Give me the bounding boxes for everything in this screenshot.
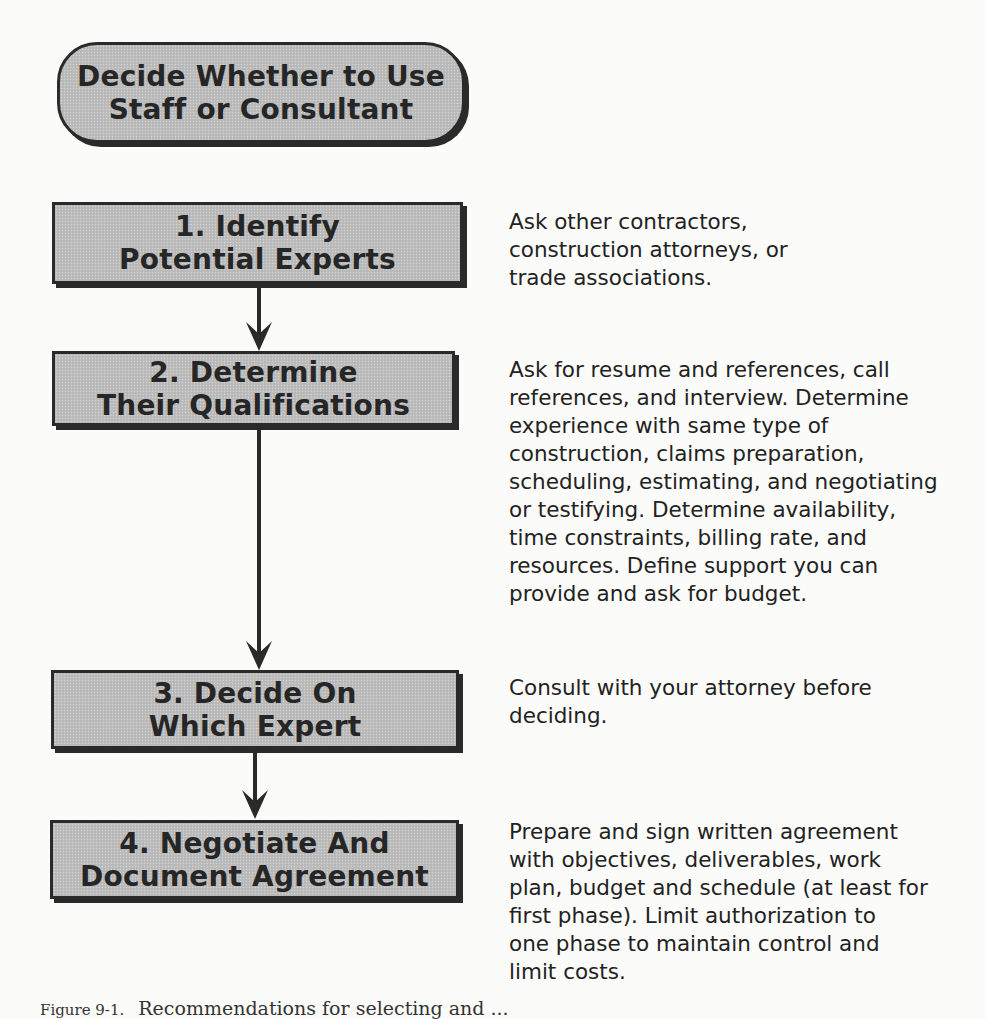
figure-caption: Figure 9-1. Recommendations for selectin…	[40, 997, 509, 1019]
step-3-title-line-1: 3. Decide On	[153, 677, 356, 710]
start-terminal: Decide Whether to Use Staff or Consultan…	[57, 42, 465, 143]
start-terminal-line-2: Staff or Consultant	[109, 93, 414, 126]
figure-label: Figure 9-1.	[40, 1001, 124, 1019]
step-4-title-line-2: Document Agreement	[80, 860, 429, 893]
step-3-title-line-2: Which Expert	[149, 710, 362, 743]
step-4-title-line-1: 4. Negotiate And	[119, 827, 389, 860]
step-2-box: 2. Determine Their Qualifications	[52, 351, 455, 426]
step-4-box: 4. Negotiate And Document Agreement	[50, 820, 459, 899]
step-1-title-line-1: 1. Identify	[175, 210, 340, 243]
step-2-title-line-2: Their Qualifications	[97, 389, 410, 422]
step-3-note: Consult with your attorney before decidi…	[509, 674, 979, 730]
step-1-note: Ask other contractors, construction atto…	[509, 208, 979, 292]
step-2-title-line-1: 2. Determine	[149, 356, 357, 389]
step-4-note: Prepare and sign written agreement with …	[509, 818, 979, 986]
connector-2-line	[257, 427, 261, 657]
step-2-note: Ask for resume and references, call refe…	[509, 356, 979, 608]
step-1-title-line-2: Potential Experts	[119, 243, 396, 276]
start-terminal-line-1: Decide Whether to Use	[77, 60, 445, 93]
step-3-box: 3. Decide On Which Expert	[51, 670, 459, 749]
step-1-box: 1. Identify Potential Experts	[52, 202, 463, 284]
figure-caption-text: Recommendations for selecting and ...	[138, 997, 508, 1019]
